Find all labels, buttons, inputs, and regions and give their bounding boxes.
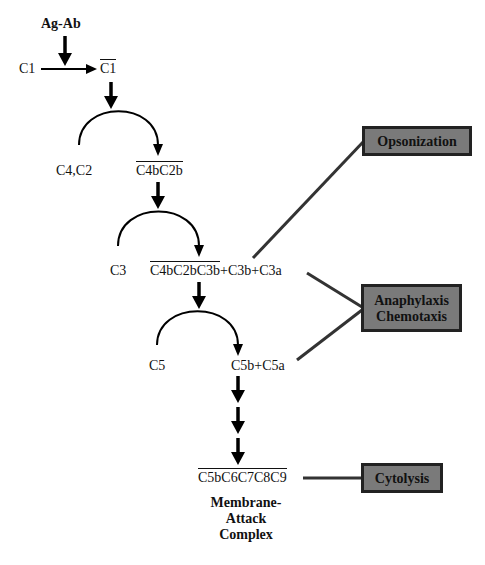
mac-label-line-1: Membrane- [198,495,294,511]
arrow-down-3 [192,282,206,309]
mac-label-line-3: Complex [198,527,294,543]
mac-label: Membrane- Attack Complex [198,495,294,543]
arrow-agab-down [58,36,72,66]
connector-c3a-anaphylaxis [307,273,362,307]
node-mac: C5bC6C7C8C9 [198,468,287,486]
node-c3-byproducts: +C3b+C3a [220,261,282,279]
arrow-down-5 [231,407,245,434]
connector-opsonization [253,141,364,258]
outcome-opsonization: Opsonization [362,126,472,156]
trigger-agab: Ag-Ab [41,16,81,32]
arc-c3 [118,212,204,258]
node-c3: C3 [110,263,126,279]
arrow-down-6 [231,438,245,465]
outcome-chemotaxis: Chemotaxis [364,309,459,325]
node-c4bc2b: C4bC2b [136,161,183,179]
arc-c5 [157,311,243,356]
outcome-anaphylaxis: Anaphylaxis [364,293,459,309]
arrow-down-2 [151,182,165,209]
arc-c4c2 [79,111,163,156]
node-c3-convertase: C4bC2bC3b [150,261,220,279]
connector-c5a-anaphylaxis [297,310,362,360]
node-c4c2: C4,C2 [56,163,92,179]
arrow-c1-activation [41,64,97,74]
mac-label-line-2: Attack [198,511,294,527]
node-c1: C1 [19,61,35,77]
arrow-down-4 [231,376,245,403]
arrow-down-1 [104,82,118,109]
outcome-cytolysis: Cytolysis [361,463,443,493]
node-c3-products-row: C4bC2bC3b+C3b+C3a [150,261,282,279]
outcome-anaphylaxis-chemotaxis: Anaphylaxis Chemotaxis [361,284,462,332]
node-c5: C5 [149,358,165,374]
node-c5-products: C5b+C5a [231,358,285,374]
node-c1-active: C1 [100,59,116,77]
